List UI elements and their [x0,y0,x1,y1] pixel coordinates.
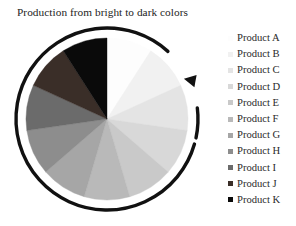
legend-item-label: Product K [237,194,280,206]
legend-item-label: Product A [237,32,280,44]
legend-item[interactable]: Product H [228,143,296,159]
legend-item-label: Product I [237,162,276,174]
legend-swatch-icon [228,52,233,57]
legend-item-label: Product E [237,97,279,109]
arrow-arc-tail [196,108,198,138]
legend-item-label: Product D [237,81,280,93]
legend-item-label: Product F [237,113,279,125]
legend-item[interactable]: Product A [228,30,296,46]
legend-item[interactable]: Product K [228,192,296,208]
legend: Product AProduct BProduct CProduct DProd… [228,30,296,220]
legend-item-label: Product J [237,178,277,190]
legend-item-label: Product H [237,145,280,157]
legend-item[interactable]: Product F [228,111,296,127]
legend-item[interactable]: Product C [228,62,296,78]
chart-page: Production from bright to dark colors Pr… [0,0,296,226]
pie-chart-svg [8,22,216,222]
legend-item-label: Product C [237,64,280,76]
legend-swatch-icon [228,84,233,89]
legend-swatch-icon [228,68,233,73]
legend-swatch-icon [228,197,233,202]
legend-swatch-icon [228,36,233,41]
legend-item[interactable]: Product B [228,46,296,62]
legend-item[interactable]: Product D [228,79,296,95]
legend-swatch-icon [228,149,233,154]
legend-swatch-icon [228,100,233,105]
legend-item[interactable]: Product I [228,160,296,176]
legend-swatch-icon [228,165,233,170]
page-title: Production from bright to dark colors [17,5,227,19]
pie-slices-group [26,38,188,200]
legend-item-label: Product B [237,48,280,60]
pie-chart-area [8,22,216,222]
legend-swatch-icon [228,117,233,122]
legend-item[interactable]: Product G [228,127,296,143]
legend-item[interactable]: Product E [228,95,296,111]
legend-swatch-icon [228,181,233,186]
legend-item[interactable]: Product J [228,176,296,192]
arrow-head [184,75,197,87]
legend-swatch-icon [228,133,233,138]
legend-item-label: Product G [237,129,280,141]
